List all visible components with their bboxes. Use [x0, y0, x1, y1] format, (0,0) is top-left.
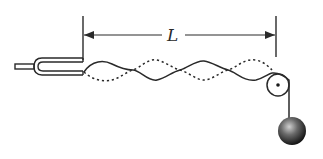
wave-solid — [84, 61, 272, 80]
length-label: L — [166, 25, 178, 45]
string-wave — [84, 60, 272, 81]
length-dimension: L — [83, 16, 276, 60]
hanging-mass-icon — [278, 117, 306, 145]
standing-wave-diagram: L — [0, 0, 323, 159]
tuning-fork-icon — [15, 58, 83, 75]
